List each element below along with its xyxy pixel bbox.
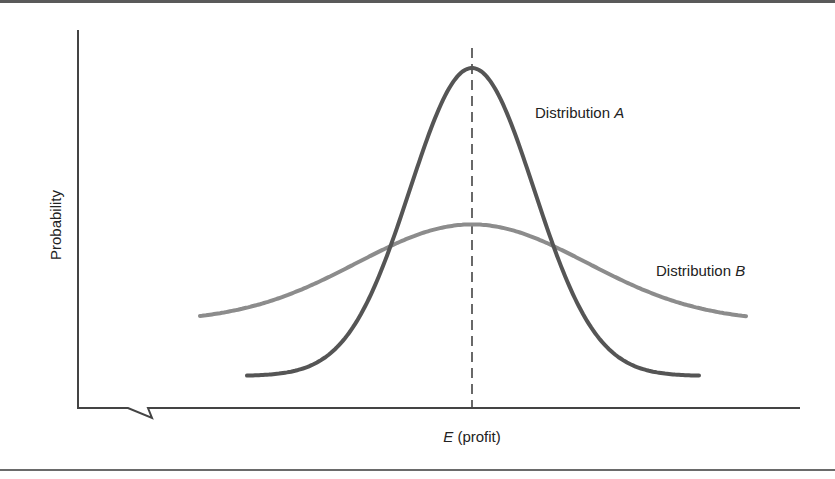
distribution-b-label-text: Distribution bbox=[656, 262, 735, 279]
y-axis-label: Probability bbox=[47, 190, 64, 260]
bottom-rule bbox=[0, 469, 835, 471]
distribution-b-label-var: B bbox=[735, 262, 745, 279]
distribution-a-label-var: A bbox=[614, 104, 624, 121]
x-axis-label-text: (profit) bbox=[453, 428, 501, 445]
x-axis bbox=[77, 408, 800, 418]
distribution-a-label-text: Distribution bbox=[535, 104, 614, 121]
distribution-a-label: Distribution A bbox=[535, 104, 624, 121]
chart-canvas bbox=[0, 0, 835, 479]
x-axis-label: E (profit) bbox=[443, 428, 501, 445]
distribution-b-label: Distribution B bbox=[656, 262, 745, 279]
x-axis-label-variable: E bbox=[443, 428, 453, 445]
distribution-a-curve bbox=[247, 68, 699, 376]
chart-figure: Probability E (profit) Distribution A Di… bbox=[0, 0, 835, 479]
